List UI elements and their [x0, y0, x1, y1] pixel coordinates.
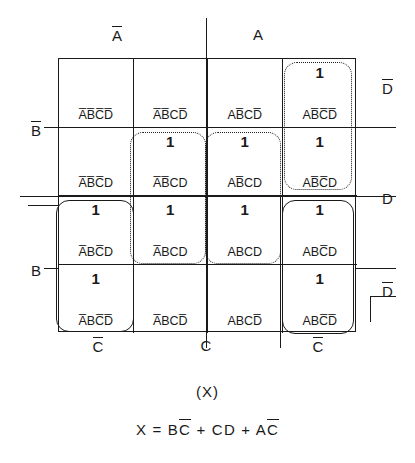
- divider-d-vertical: [370, 296, 371, 322]
- left-label-b: B: [31, 263, 41, 278]
- kmap-cell-r0-c2[interactable]: AB̅CD̅: [208, 59, 283, 128]
- tick-right-d-span: [370, 296, 396, 297]
- cell-minterm-label: ABCD: [208, 246, 282, 260]
- kmap-cell-r1-c3[interactable]: 1AB̅C̅D: [283, 128, 358, 197]
- cell-value: 1: [283, 202, 358, 217]
- b-text: B: [31, 262, 41, 279]
- top-label-a-not: A: [99, 27, 135, 43]
- kmap-figure: A A B B D D D A̅B̅C̅D̅A̅B̅CD̅AB̅CD̅1AB̅C…: [0, 0, 415, 463]
- equation-term-3: AC: [256, 421, 279, 438]
- kmap-cell-r3-c3[interactable]: 1ABC̅D̅: [283, 265, 358, 334]
- cell-value: 1: [208, 202, 282, 217]
- cell-minterm-label: A̅BCD: [134, 246, 208, 260]
- divider-col-right: [280, 196, 281, 348]
- kmap-cell-r3-c2[interactable]: ABCD̅: [208, 265, 283, 334]
- cell-minterm-label: A̅BCD̅: [134, 315, 208, 329]
- cell-value: 1: [283, 65, 358, 80]
- divider-a-vertical: [206, 18, 207, 58]
- c-text: C: [201, 337, 212, 354]
- kmap-cell-r2-c0[interactable]: 1A̅BC̅D: [59, 196, 134, 265]
- kmap-cell-r0-c0[interactable]: A̅B̅C̅D̅: [59, 59, 134, 128]
- d-text: D: [382, 190, 393, 207]
- left-label-b-not: B: [31, 122, 41, 138]
- figure-caption: (X): [0, 383, 415, 400]
- bottom-label-c-not-left: C: [80, 338, 116, 354]
- cell-minterm-label: AB̅C̅D̅: [283, 109, 358, 123]
- cell-minterm-label: A̅B̅C̅D: [59, 177, 133, 191]
- d-not-top-text: D: [382, 80, 393, 96]
- equation-lhs: X: [136, 421, 147, 438]
- kmap-cell-r2-c2[interactable]: 1ABCD: [208, 196, 283, 265]
- equation-equals: =: [153, 421, 163, 438]
- kmap-cell-r1-c0[interactable]: A̅B̅C̅D: [59, 128, 134, 197]
- boolean-equation: X = BC + CD + AC: [0, 420, 415, 438]
- tick-left-b-span2: [28, 205, 58, 206]
- kmap-cell-r1-c1[interactable]: 1A̅B̅CD: [134, 128, 209, 197]
- top-label-a: A: [240, 27, 276, 42]
- c-not-right-text: C: [313, 338, 324, 354]
- equation-plus-2: +: [241, 421, 251, 438]
- tick-left-b-not: [44, 127, 58, 128]
- cell-value: 1: [59, 271, 133, 286]
- kmap-cell-r1-c2[interactable]: 1AB̅CD: [208, 128, 283, 197]
- tick-right-d-lower: [356, 268, 396, 269]
- cell-minterm-label: ABCD̅: [208, 315, 282, 329]
- kmap-cell-r0-c1[interactable]: A̅B̅CD̅: [134, 59, 209, 128]
- cell-minterm-label: A̅B̅C̅D̅: [59, 109, 133, 123]
- cell-value: 1: [59, 202, 133, 217]
- right-label-d: D: [382, 191, 393, 206]
- cell-value: 1: [283, 271, 358, 286]
- cell-minterm-label: A̅B̅CD: [134, 177, 208, 191]
- cell-value: 1: [134, 134, 208, 149]
- cell-minterm-label: A̅BC̅D̅: [59, 315, 133, 329]
- cell-minterm-label: AB̅CD: [208, 177, 282, 191]
- equation-term-1-bar: C: [179, 420, 191, 438]
- c-not-left-text: C: [93, 338, 104, 354]
- kmap-cell-r3-c0[interactable]: 1A̅BC̅D̅: [59, 265, 134, 334]
- tick-left-b: [44, 268, 58, 269]
- cell-value: 1: [208, 134, 282, 149]
- equation-term-1: BC: [168, 421, 191, 438]
- bottom-label-c: C: [188, 338, 224, 353]
- tick-right-d-not-top: [356, 127, 396, 128]
- equation-term-2: CD: [212, 421, 236, 438]
- cell-minterm-label: AB̅CD̅: [208, 109, 282, 123]
- cell-minterm-label: ABC̅D̅: [283, 315, 358, 329]
- cell-minterm-label: A̅B̅CD̅: [134, 109, 208, 123]
- kmap-cell-r3-c1[interactable]: A̅BCD̅: [134, 265, 209, 334]
- bottom-label-c-not-right: C: [300, 338, 336, 354]
- a-not-text: A: [112, 27, 122, 43]
- equation-term-3-bar: C: [267, 420, 279, 438]
- right-label-d-not-top: D: [382, 80, 393, 96]
- cell-minterm-label: AB̅C̅D: [283, 177, 358, 191]
- divider-row-mid: [20, 196, 396, 197]
- kmap-cell-r0-c3[interactable]: 1AB̅C̅D̅: [283, 59, 358, 128]
- cell-minterm-label: ABC̅D: [283, 246, 358, 260]
- cell-value: 1: [283, 134, 358, 149]
- cell-value: 1: [134, 202, 208, 217]
- a-text: A: [253, 26, 263, 43]
- kmap-cell-r2-c1[interactable]: 1A̅BCD: [134, 196, 209, 265]
- divider-col-mid: [206, 58, 207, 348]
- kmap-cell-r2-c3[interactable]: 1ABC̅D: [283, 196, 358, 265]
- cell-minterm-label: A̅BC̅D: [59, 246, 133, 260]
- equation-plus-1: +: [197, 421, 207, 438]
- b-not-text: B: [31, 122, 41, 138]
